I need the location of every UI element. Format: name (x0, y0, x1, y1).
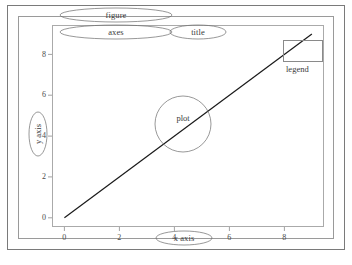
y-tick-label: 6 (28, 90, 46, 99)
figure-annotation-label: figure (60, 8, 172, 22)
title-annotation-label: title (170, 25, 226, 39)
y-tick-label: 8 (28, 50, 46, 59)
x-tick-label: 2 (109, 233, 129, 242)
axes-annotation-label: axes (60, 25, 172, 39)
y-tick-label: 2 (28, 172, 46, 181)
x-tick-label: 0 (54, 233, 74, 242)
legend-label: legend (286, 64, 309, 74)
y-tick-label: 4 (28, 131, 46, 140)
legend-box (283, 40, 323, 62)
plot-annotation-label: plot (168, 113, 198, 123)
y-tick-label: 0 (28, 213, 46, 222)
x-tick-label: 6 (219, 233, 239, 242)
plot-circle (155, 96, 211, 152)
x-tick-label: 4 (164, 233, 184, 242)
figure-anatomy-diagram: legend figure axes title x axis y axis p… (0, 0, 352, 265)
data-line-series (64, 34, 312, 218)
x-tick-label: 8 (274, 233, 294, 242)
